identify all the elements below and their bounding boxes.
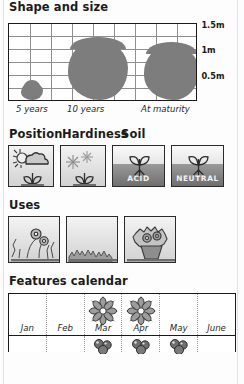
calendar-cell-feb[interactable]: Feb xyxy=(47,294,85,335)
soil-label-acid: ACID xyxy=(113,174,164,183)
shrub-10-years xyxy=(68,40,128,100)
section-title-position: Position xyxy=(9,127,61,141)
uses-panel-flower-border xyxy=(8,216,60,263)
snowflakes-with-plant-icon xyxy=(61,146,106,187)
berries-icon xyxy=(126,338,156,358)
section-title-features-calendar: Features calendar xyxy=(9,274,236,288)
month-label-jan: Jan xyxy=(9,323,46,333)
section-title-shape-and-size: Shape and size xyxy=(9,0,236,14)
calendar-cell-apr[interactable]: Apr xyxy=(122,294,160,335)
shape-and-size-chart: 1.5m 1m 0.5m 5 years 10 years At maturit… xyxy=(8,23,236,116)
soil-panel-acid: ACID xyxy=(112,145,165,187)
hardiness-panel xyxy=(60,145,106,187)
conditions-headings: Position Hardiness Soil xyxy=(8,127,236,145)
sun-behind-cloud-with-plant-icon xyxy=(9,146,54,187)
section-title-hardiness: Hardiness xyxy=(62,127,120,141)
growth-plot xyxy=(8,23,197,101)
shrub-at-maturity xyxy=(144,45,197,100)
calendar-berry-cell-feb[interactable] xyxy=(47,336,85,352)
calendar-berry-cell-june[interactable] xyxy=(198,336,235,352)
calendar-cell-may[interactable]: May xyxy=(160,294,198,335)
growth-stage-labels: 5 years 10 years At maturity xyxy=(8,101,204,116)
conditions-panels: ACID NEUTRAL xyxy=(8,145,236,187)
ground-cover-icon xyxy=(67,217,118,263)
flower-border-icon xyxy=(9,217,60,263)
scale-label-0-5m: 0.5m xyxy=(201,71,224,81)
stage-label-5-years: 5 years xyxy=(16,104,48,114)
position-panel xyxy=(8,145,54,187)
berries-icon xyxy=(88,338,118,358)
height-scale-axis: 1.5m 1m 0.5m xyxy=(197,23,236,101)
calendar-row-flowering: Jan Feb xyxy=(9,294,235,336)
page-gutter-right xyxy=(237,0,238,384)
container-planting-icon xyxy=(125,217,176,263)
calendar-berry-cell-apr[interactable] xyxy=(122,336,160,352)
features-calendar-block: Features calendar Jan Feb xyxy=(8,274,236,352)
calendar-berry-cell-may[interactable] xyxy=(160,336,198,352)
month-label-apr: Apr xyxy=(122,323,159,333)
calendar-cell-mar[interactable]: Mar xyxy=(85,294,123,335)
uses-panel-container-planting xyxy=(124,216,176,263)
calendar-cell-jan[interactable]: Jan xyxy=(9,294,47,335)
month-label-june: June xyxy=(198,323,235,333)
conditions-block: Position Hardiness Soil xyxy=(8,127,236,187)
section-title-soil: Soil xyxy=(121,127,145,141)
uses-panel-ground-cover xyxy=(66,216,118,263)
soil-label-neutral: NEUTRAL xyxy=(172,174,223,183)
calendar-berry-cell-jan[interactable] xyxy=(9,336,47,352)
scale-label-1m: 1m xyxy=(201,45,215,55)
soil-panel-neutral: NEUTRAL xyxy=(171,145,224,187)
uses-block: Uses xyxy=(8,198,236,263)
features-calendar-table: Jan Feb xyxy=(8,293,236,352)
month-label-mar: Mar xyxy=(85,323,122,333)
calendar-berry-cell-mar[interactable] xyxy=(85,336,123,352)
stage-label-at-maturity: At maturity xyxy=(141,104,190,114)
calendar-cell-june[interactable]: June xyxy=(198,294,235,335)
shrub-5-years xyxy=(21,83,43,100)
calendar-row-berries xyxy=(9,336,235,352)
scale-label-1-5m: 1.5m xyxy=(201,20,224,30)
berries-icon xyxy=(164,338,194,358)
stage-label-10-years: 10 years xyxy=(67,104,104,114)
page-gutter-left xyxy=(3,0,4,384)
month-label-may: May xyxy=(160,323,197,333)
plant-profile-page: Shape and size xyxy=(0,0,244,384)
month-label-feb: Feb xyxy=(47,323,84,333)
uses-panels xyxy=(8,216,236,263)
section-title-uses: Uses xyxy=(9,198,236,212)
